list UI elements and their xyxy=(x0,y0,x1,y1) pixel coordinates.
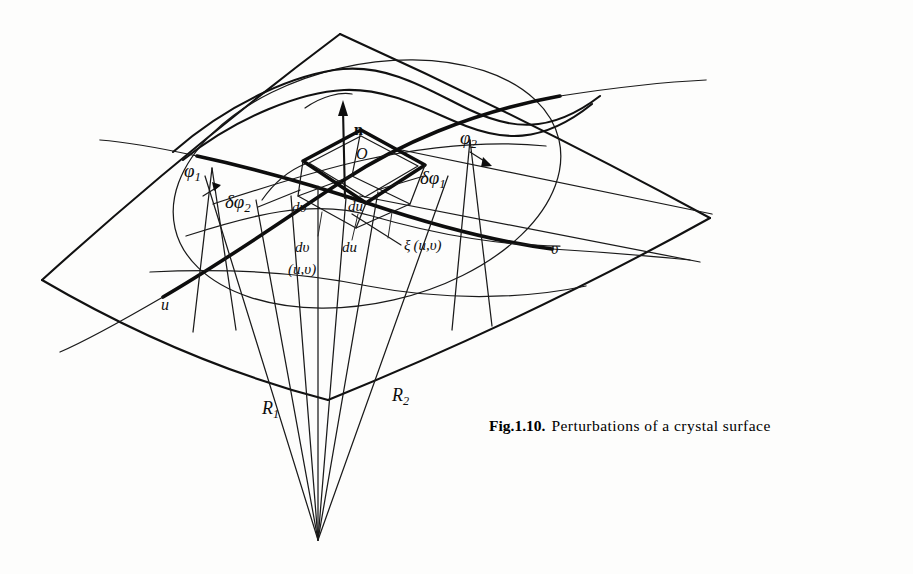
principal-radii xyxy=(205,176,448,540)
delta-phi1-label: δφ1 xyxy=(420,168,446,191)
phi1-symbol: φ xyxy=(184,160,195,181)
displacement-field-label: ξ(u,υ) xyxy=(404,238,442,253)
figure-caption-text: Perturbations of a crystal surface xyxy=(551,417,770,434)
origin-point-label: O xyxy=(356,146,368,162)
delta-phi1-subscript: 1 xyxy=(439,176,445,191)
radius1-label: R1 xyxy=(262,399,279,420)
delta-phi1-leader xyxy=(377,176,424,190)
phi1-label: φ1 xyxy=(184,161,201,184)
figure-number: Fig.1.10. xyxy=(489,417,545,434)
point-uv-label: (u,υ) xyxy=(288,262,316,277)
radius1-symbol: R xyxy=(262,398,273,418)
dv-prime-label: dυ′ xyxy=(292,200,310,215)
figure-caption: Fig.1.10.Perturbations of a crystal surf… xyxy=(489,417,771,435)
dv-label: dυ xyxy=(295,240,309,255)
du-prime-label: du′ xyxy=(348,199,366,214)
radius1-subscript: 1 xyxy=(273,407,279,421)
radius2-label: R2 xyxy=(392,386,409,407)
crystal-surface-diagram xyxy=(0,0,913,574)
delta-phi2-subscript: 2 xyxy=(244,200,250,215)
delta-phi2-symbol: δφ xyxy=(225,191,244,212)
xi-argument: (u,υ) xyxy=(413,237,441,253)
phi2-label: φ2 xyxy=(460,128,477,151)
normal-vector-label: n xyxy=(354,122,363,138)
du-label: du xyxy=(342,240,357,255)
u-curve-label: u xyxy=(161,297,169,313)
figure-container: n O u υ φ1 φ2 δφ1 δφ2 dυ′ du′ dυ du (u,υ… xyxy=(0,0,913,574)
xi-symbol: ξ xyxy=(404,237,410,253)
radius2-subscript: 2 xyxy=(403,394,409,408)
radius-fan xyxy=(256,186,378,540)
delta-phi1-symbol: δφ xyxy=(420,167,439,188)
phi2-subscript: 2 xyxy=(471,136,477,151)
phi1-subscript: 1 xyxy=(195,169,201,184)
delta-phi2-label: δφ2 xyxy=(225,192,251,215)
radius2-symbol: R xyxy=(392,385,403,405)
v-curve-label: υ xyxy=(551,241,558,257)
phi2-symbol: φ xyxy=(460,127,471,148)
